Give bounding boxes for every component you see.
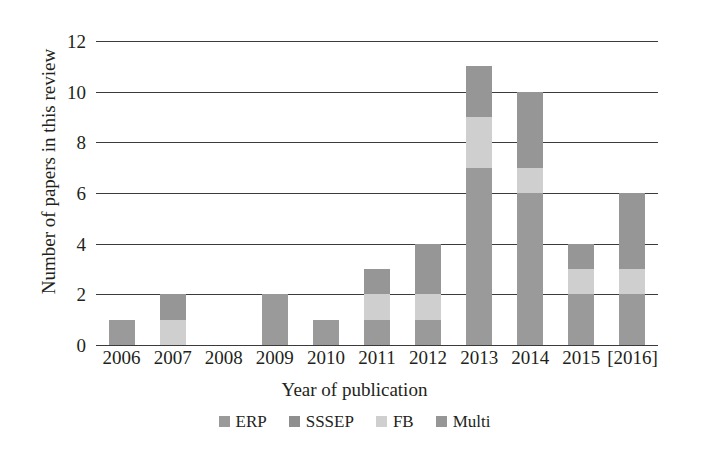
legend-label: SSSEP [306,413,354,430]
y-axis-title: Number of papers in this review [39,12,58,332]
bar-segment-erp [109,320,135,345]
gridline-0 [96,345,658,346]
x-tick-label-2016: [2016] [600,348,664,367]
bar-segment-erp [415,320,441,345]
bar-segment-erp [364,320,390,345]
gridline-12 [96,41,658,42]
legend-swatch-icon [289,416,300,427]
legend-label: Multi [453,413,491,430]
legend-item-multi[interactable]: Multi [436,413,491,430]
bar-segment-multi [517,92,543,168]
y-tick-label-12: 12 [38,32,86,51]
legend-swatch-icon [436,416,447,427]
bar-segment-multi [568,244,594,269]
y-tick-label-4: 4 [38,234,86,253]
bar-segment-multi [466,66,492,117]
bar-column [517,92,543,345]
legend-label: ERP [236,413,267,430]
bar-segment-multi [160,294,186,319]
bar-segment-fb [517,168,543,193]
bar-column [313,320,339,345]
bar-segment-fb [364,294,390,319]
legend-label: FB [393,413,414,430]
legend-swatch-icon [376,416,387,427]
bar-segment-multi [415,244,441,295]
gridline-6 [96,193,658,194]
bar-segment-erp [466,168,492,345]
y-tick-label-6: 6 [38,184,86,203]
bar-segment-multi [364,269,390,294]
bar-segment-fb [568,269,594,294]
bar-column [619,193,645,345]
bar-column [364,269,390,345]
gridline-8 [96,142,658,143]
y-tick-label-2: 2 [38,285,86,304]
x-axis-title: Year of publication [0,380,709,399]
y-tick-label-10: 10 [38,82,86,101]
bar-column [160,294,186,345]
chart-legend: ERPSSSEPFBMulti [0,413,709,430]
bar-segment-fb [466,117,492,168]
legend-item-fb[interactable]: FB [376,413,414,430]
bar-segment-erp [568,294,594,345]
gridline-10 [96,92,658,93]
bar-segment-fb [415,294,441,319]
bar-column [262,294,288,345]
y-tick-label-8: 8 [38,133,86,152]
bar-segment-erp [262,294,288,345]
bar-segment-multi [619,193,645,269]
legend-item-sssep[interactable]: SSSEP [289,413,354,430]
bar-chart-figure: Number of papers in this review 02468101… [0,0,709,453]
bar-column [466,66,492,345]
bar-column [415,244,441,345]
legend-swatch-icon [219,416,230,427]
bar-segment-erp [313,320,339,345]
bar-column [109,320,135,345]
bar-column [568,244,594,345]
legend-item-erp[interactable]: ERP [219,413,267,430]
y-tick-label-0: 0 [38,336,86,355]
bar-segment-erp [619,294,645,345]
bar-segment-fb [619,269,645,294]
bar-segment-fb [160,320,186,345]
plot-area: 024681012 200620072008200920102011201220… [96,41,658,345]
bar-segment-erp [517,193,543,345]
